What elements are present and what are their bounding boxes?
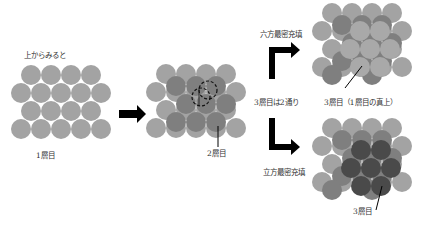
ccp-label: 立方最密充填 <box>263 169 305 177</box>
close-packing-diagram <box>0 0 425 226</box>
arrow-right-icon <box>119 105 146 123</box>
layer3-ccp-label: 3層目 <box>353 208 372 216</box>
layer2-lattice <box>166 76 236 132</box>
elbow-arrow-up-right-icon <box>269 42 300 79</box>
hcp-label: 六方最密充填 <box>260 31 302 39</box>
layer1-lattice <box>11 65 111 139</box>
layer1-label: 1層目 <box>36 152 55 160</box>
view-from-top-label: 上からみると <box>24 52 66 60</box>
elbow-arrow-down-right-icon <box>269 118 300 155</box>
layer3-hcp-label: 3層目（1層目の真上） <box>324 99 397 107</box>
layer2-label: 2層目 <box>207 150 226 158</box>
two-ways-label: 3層目は2通り <box>254 99 299 107</box>
